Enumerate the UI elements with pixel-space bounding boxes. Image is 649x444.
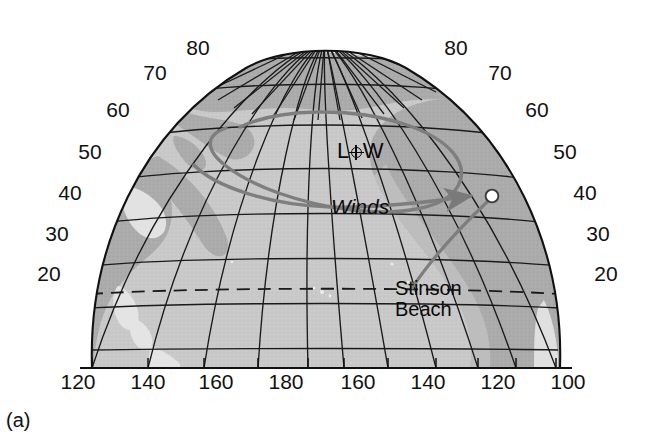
lat-label-left-70: 70 — [143, 62, 166, 83]
lon-label-120W: 120 — [480, 371, 515, 392]
lon-label-160E: 160 — [198, 371, 233, 392]
lat-label-right-70: 70 — [488, 62, 511, 83]
lon-label-160W: 160 — [340, 371, 375, 392]
lat-label-right-20: 20 — [594, 263, 617, 284]
circled-cross-low-pressure-center-icon — [349, 145, 364, 160]
lon-label-140E: 140 — [130, 371, 165, 392]
lat-label-left-60: 60 — [106, 99, 129, 120]
lat-label-left-80: 80 — [186, 37, 209, 58]
hawaii-island — [329, 295, 332, 298]
lat-label-left-20: 20 — [37, 263, 60, 284]
open-circle-endpoint-marker — [486, 190, 499, 203]
small-island — [231, 261, 234, 264]
stinson-label-line2: Beach — [395, 298, 452, 320]
lat-label-right-60: 60 — [525, 99, 548, 120]
lat-label-left-40: 40 — [58, 182, 81, 203]
stinson-beach-label: StinsonBeach — [395, 278, 462, 320]
lat-label-left-50: 50 — [78, 141, 101, 162]
lon-label-180: 180 — [268, 371, 303, 392]
stinson-label-line1: Stinson — [395, 277, 462, 299]
lon-label-100W: 100 — [550, 371, 585, 392]
figure-panel-a: 80 70 60 50 40 30 20 80 70 60 50 40 30 2… — [0, 0, 649, 444]
lon-label-120E: 120 — [60, 371, 95, 392]
lat-label-right-80: 80 — [444, 37, 467, 58]
low-label-suffix: W — [363, 138, 384, 163]
panel-caption: (a) — [6, 410, 30, 430]
lat-label-left-30: 30 — [45, 223, 68, 244]
lat-label-right-50: 50 — [553, 141, 576, 162]
lat-label-right-30: 30 — [586, 223, 609, 244]
hawaii-island — [320, 290, 324, 294]
low-pressure-label: LW — [337, 140, 384, 163]
hawaii-island — [313, 287, 315, 289]
lat-label-right-40: 40 — [573, 182, 596, 203]
lon-label-140W: 140 — [410, 371, 445, 392]
small-island — [390, 262, 393, 265]
winds-label: Winds — [331, 196, 389, 218]
